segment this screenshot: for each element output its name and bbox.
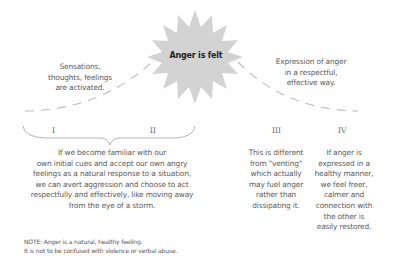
stage-numeral-iv: IV — [338, 126, 346, 135]
stage-numeral-i: I — [52, 126, 55, 135]
center-label: Anger is felt — [160, 51, 232, 60]
stage-numeral-iii: III — [272, 126, 281, 135]
stage-numeral-ii: II — [150, 126, 156, 135]
right-caption: Expression of anger in a respectful, eff… — [256, 57, 366, 89]
stage-iii-text: This is different from "venting" which a… — [240, 148, 312, 212]
note-line-2: It is not to be confused with violence o… — [24, 247, 177, 256]
curly-brace — [23, 126, 195, 145]
left-caption: Sensations, thoughts, feelings are activ… — [30, 62, 130, 94]
stage-iv-text: If anger is expressed in a healthy manne… — [308, 148, 380, 233]
note-line-1: NOTE: Anger is a natural, healthy feelin… — [24, 238, 142, 247]
stage-i-ii-text: If we become familiar with our own initi… — [14, 148, 210, 212]
